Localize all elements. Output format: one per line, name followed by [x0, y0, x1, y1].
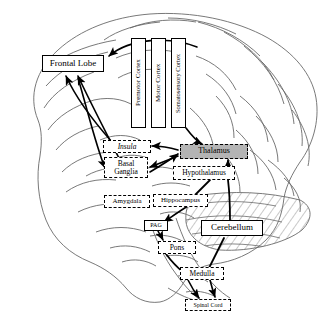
region-label-basal-ganglia: Basal Ganglia — [114, 160, 138, 176]
region-label-medulla: Medulla — [190, 270, 215, 278]
region-box-frontal-lobe[interactable]: Frontal Lobe — [42, 55, 104, 72]
region-box-premotor-cortex[interactable]: Premotor Cortex — [131, 38, 146, 128]
region-label-insula: Insula — [118, 143, 137, 151]
region-label-cerebellum: Cerebellum — [211, 223, 253, 232]
arrow-thalamus-to-frontal — [78, 76, 124, 168]
region-label-thalamus: Thalamus — [198, 147, 230, 155]
arrow-somatosensory-to-thalamus — [186, 128, 202, 144]
region-box-spinal-cord[interactable]: Spinal Cord — [185, 299, 231, 311]
region-label-motor-cortex: Motor Cortex — [155, 64, 162, 102]
region-box-pag[interactable]: PAG — [144, 220, 168, 231]
region-box-hypothalamus[interactable]: Hypothalamus — [173, 166, 235, 180]
region-box-cerebellum[interactable]: Cerebellum — [201, 220, 263, 236]
region-box-pons[interactable]: Pons — [158, 241, 196, 254]
arrow-thalamus-to-insula — [152, 146, 178, 150]
brain-diagram-canvas: Frontal LobePremotor CortexMotor CortexS… — [0, 0, 326, 332]
region-label-hypothalamus: Hypothalamus — [182, 169, 226, 177]
region-box-amygdala[interactable]: Amygdala — [104, 195, 150, 208]
region-box-hippocampus[interactable]: Hippocampus — [153, 194, 208, 207]
region-box-insula[interactable]: Insula — [103, 140, 151, 153]
region-label-spinal-cord: Spinal Cord — [194, 302, 223, 308]
region-box-thalamus[interactable]: Thalamus — [180, 144, 248, 159]
region-box-basal-ganglia[interactable]: Basal Ganglia — [104, 157, 148, 178]
region-box-motor-cortex[interactable]: Motor Cortex — [151, 38, 166, 128]
region-box-medulla[interactable]: Medulla — [180, 267, 224, 280]
region-label-somatosensory-cortex: Somatosensory Cortex — [175, 53, 182, 112]
region-label-amygdala: Amygdala — [112, 198, 141, 205]
region-label-frontal-lobe: Frontal Lobe — [50, 59, 97, 68]
region-label-premotor-cortex: Premotor Cortex — [135, 60, 142, 107]
region-label-hippocampus: Hippocampus — [161, 197, 200, 204]
region-label-pons: Pons — [170, 244, 185, 252]
arrow-medulla-to-spinal-1 — [188, 280, 199, 298]
region-label-pag: PAG — [150, 222, 161, 228]
region-box-somatosensory-cortex[interactable]: Somatosensory Cortex — [171, 38, 186, 128]
